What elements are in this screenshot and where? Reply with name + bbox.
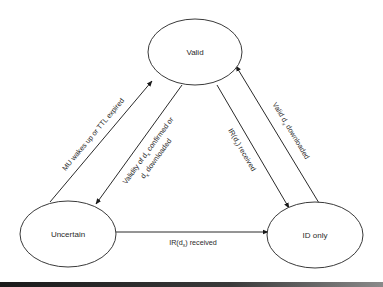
state-diagram: MU wakes up or TTL expired Validity of d… [0,0,383,287]
arrow-line [50,81,152,202]
state-label-id-only: ID only [303,231,328,240]
bottom-border-bar [0,282,383,287]
state-valid: Valid [148,19,242,85]
state-uncertain: Uncertain [20,201,116,267]
edge-label-ir-received-diag: IR(dx) received [225,127,257,173]
edge-label-valid-downloaded: Valid dx downloaded [270,101,312,162]
arrow-line [236,66,319,203]
state-id-only: ID only [267,202,363,268]
edge-label-ir-received-bottom: IR(dx) received [169,238,217,248]
state-label-uncertain: Uncertain [51,230,85,239]
edge-label-mu-wakes-up: MU wakes up or TTL expired [60,96,126,172]
transition-valid-to-uncertain: Validity of dx confirmed or dx downloade… [96,85,182,204]
transition-uncertain-to-id-only: IR(dx) received [116,232,268,248]
transition-uncertain-to-valid: MU wakes up or TTL expired [50,81,152,202]
state-label-valid: Valid [186,48,203,57]
transition-id-only-to-valid: Valid dx downloaded [236,66,319,203]
